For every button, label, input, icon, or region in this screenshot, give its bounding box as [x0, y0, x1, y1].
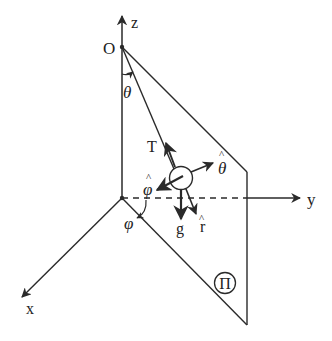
tension-label: T — [147, 138, 157, 155]
r-hat-label: r — [200, 218, 206, 235]
theta-hat-arrow — [191, 163, 213, 172]
pendulum-diagram: Π z O y x θ φ T g ^ r ^ θ ^ φ — [0, 0, 332, 341]
phi-hat-label: φ — [143, 180, 152, 199]
plane-bottom-edge — [122, 198, 247, 325]
phi-angle-label: φ — [124, 214, 133, 233]
origin-label: O — [103, 39, 115, 58]
origin-dot — [120, 196, 124, 200]
plane-label: Π — [219, 275, 231, 292]
x-axis-label: x — [26, 300, 34, 317]
z-axis-label: z — [131, 14, 138, 31]
x-axis — [22, 198, 122, 297]
gravity-label: g — [176, 220, 184, 238]
theta-angle-label: θ — [123, 83, 131, 102]
plane-top-edge — [122, 47, 247, 172]
r-hat-arrow — [186, 189, 196, 214]
theta-arc — [122, 72, 133, 75]
theta-hat-label: θ — [218, 159, 226, 178]
diagram-canvas: Π z O y x θ φ T g ^ r ^ θ ^ φ — [0, 0, 332, 341]
y-axis-label: y — [307, 190, 316, 209]
